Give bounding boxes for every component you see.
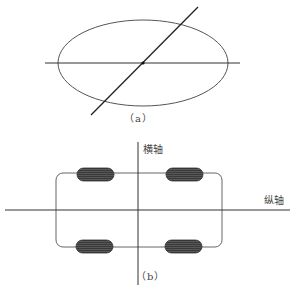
center-point <box>141 61 144 64</box>
caption-b: （b） <box>136 272 165 282</box>
wheel-rear-right <box>165 240 202 253</box>
figure-a <box>45 7 240 115</box>
wheel-front-right <box>166 168 203 181</box>
diagonal-axis-line <box>91 7 198 115</box>
horizontal-axis-label: 纵轴 <box>264 196 284 206</box>
caption-a: （a） <box>124 114 153 124</box>
figure-b <box>5 142 290 285</box>
vertical-axis-label: 横轴 <box>143 145 163 155</box>
wheel-front-left <box>77 168 114 181</box>
wheel-rear-left <box>76 240 113 253</box>
